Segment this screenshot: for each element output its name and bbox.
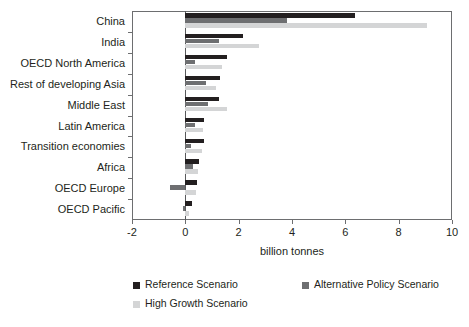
bar [185,149,202,153]
bar [185,97,219,101]
bar [185,118,204,122]
bar-group [132,178,452,199]
category-label: China [96,11,125,32]
chart-legend: Reference Scenario Alternative Policy Sc… [0,278,469,322]
legend-label: Alternative Policy Scenario [314,278,439,290]
y-axis-tick [128,157,132,158]
bar [185,107,226,111]
bar-group [132,32,452,53]
bar-group [132,116,452,137]
legend-label: Reference Scenario [145,278,238,290]
bar [185,18,286,22]
bar [185,169,198,173]
x-axis-tick [132,220,133,224]
bar-group [132,11,452,32]
bar [185,128,203,132]
x-axis-tick [345,220,346,224]
bar-group [132,136,452,157]
legend-swatch-icon [133,301,140,308]
x-axis-title: billion tonnes [132,245,452,257]
bar [185,65,222,69]
x-axis-tick-label: 8 [384,226,414,238]
category-axis-labels: ChinaIndiaOECD North AmericaRest of deve… [0,11,129,220]
category-label: India [101,32,125,53]
category-label: OECD Pacific [58,199,125,220]
category-label: OECD North America [20,53,125,74]
bar [185,211,188,215]
x-axis-tick-label: 0 [170,226,200,238]
bar [185,23,426,27]
x-axis-tick-label: -2 [117,226,147,238]
bar [185,180,197,184]
category-label: Transition economies [21,136,125,157]
bar [170,185,185,189]
category-label: OECD Europe [55,178,125,199]
x-axis-tick-label: 6 [330,226,360,238]
bar-group [132,199,452,220]
category-label: Rest of developing Asia [10,74,125,95]
bar [185,201,192,205]
bar [185,86,216,90]
bar [185,123,195,127]
x-axis-tick [239,220,240,224]
category-label: Middle East [68,95,125,116]
x-axis-tick [185,220,186,224]
y-axis-tick [128,53,132,54]
x-axis-tick-label: 2 [224,226,254,238]
y-axis-tick [128,178,132,179]
x-axis-tick [452,220,453,224]
legend-swatch-icon [302,282,309,289]
bar [185,81,206,85]
legend-item-high-growth-scenario[interactable]: High Growth Scenario [133,297,248,309]
bar [185,55,226,59]
bar [185,39,219,43]
legend-label: High Growth Scenario [145,297,248,309]
bar [183,206,186,210]
y-axis-tick [128,32,132,33]
bar [185,34,242,38]
y-axis-tick [128,95,132,96]
bar [185,60,195,64]
category-label: Africa [97,157,125,178]
bar [185,13,354,17]
legend-item-reference-scenario[interactable]: Reference Scenario [133,278,238,290]
bar-group [132,95,452,116]
x-axis-tick-label: 10 [437,226,467,238]
bar [185,102,208,106]
legend-item-alternative-policy-scenario[interactable]: Alternative Policy Scenario [302,278,439,290]
bar [185,139,204,143]
bar [185,76,220,80]
legend-swatch-icon [133,282,140,289]
bar [185,164,192,168]
bar [185,144,191,148]
bar-group [132,74,452,95]
y-axis-tick [128,74,132,75]
y-axis-tick [128,116,132,117]
bar-group [132,157,452,178]
category-label: Latin America [58,116,125,137]
x-axis-tick [399,220,400,224]
x-axis-tick-label: 4 [277,226,307,238]
bar [185,159,198,163]
y-axis-tick [128,199,132,200]
bars-layer [132,11,452,220]
bar-chart: ChinaIndiaOECD North AmericaRest of deve… [0,0,469,327]
bar [185,190,196,194]
x-axis-tick [292,220,293,224]
bar-group [132,53,452,74]
y-axis-tick [128,136,132,137]
bar [185,44,259,48]
